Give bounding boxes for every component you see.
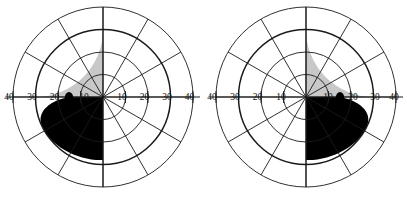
tick-label-right-40: 40	[389, 92, 399, 102]
figure-canvas: 40 30 20 10 10 20 30 40	[0, 0, 407, 198]
right-eye-chart: 40 30 20 10 10 20 30 40	[203, 0, 407, 198]
tick-label-left-30: 30	[230, 92, 240, 102]
tick-label-right-40: 40	[185, 92, 195, 102]
tick-label-right-20: 20	[348, 92, 358, 102]
left-eye-chart: 40 30 20 10 10 20 30 40	[0, 0, 204, 198]
tick-label-left-20: 20	[253, 92, 263, 102]
tick-label-left-40: 40	[207, 92, 217, 102]
tick-label-left-40: 40	[4, 92, 14, 102]
tick-label-right-10: 10	[117, 92, 127, 102]
left-eye-plot: 40 30 20 10 10 20 30 40	[0, 0, 204, 198]
tick-label-left-20: 20	[50, 92, 60, 102]
relative-scotoma-gray	[306, 30, 374, 98]
tick-label-right-30: 30	[370, 92, 380, 102]
blind-spot	[336, 92, 345, 104]
blind-spot	[65, 92, 74, 104]
tick-label-left-10: 10	[79, 92, 89, 102]
tick-label-left-30: 30	[27, 92, 37, 102]
tick-label-right-20: 20	[140, 92, 150, 102]
tick-label-left-10: 10	[276, 92, 286, 102]
tick-label-right-30: 30	[162, 92, 172, 102]
tick-label-right-10: 10	[323, 92, 333, 102]
right-eye-plot: 40 30 20 10 10 20 30 40	[203, 0, 407, 198]
relative-scotoma-gray	[36, 30, 104, 98]
